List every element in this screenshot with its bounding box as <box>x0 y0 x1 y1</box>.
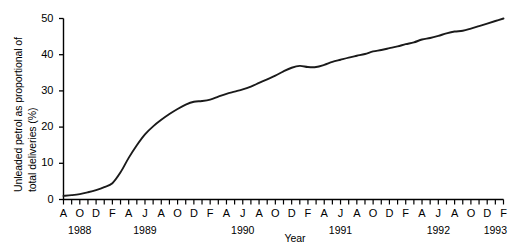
tick-marks <box>59 19 504 205</box>
plot-area <box>0 0 517 252</box>
axis-lines <box>64 19 504 200</box>
x-axis-title: Year <box>270 232 320 244</box>
data-line-unleaded-petrol <box>64 19 504 196</box>
chart-figure: Unleaded petrol as proportional of total… <box>0 0 517 252</box>
